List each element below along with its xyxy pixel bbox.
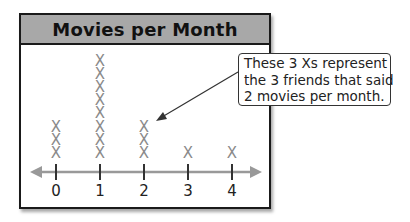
tick-label: 4 [227, 182, 237, 200]
arrow-right-icon [250, 166, 262, 178]
callout-pointer-line [162, 72, 238, 117]
x-mark: X [183, 144, 193, 162]
arrowhead-icon [156, 112, 167, 121]
x-mark: X [139, 118, 149, 136]
callout-line-3: 2 movies per month. [244, 88, 390, 105]
tick-label: 1 [95, 182, 105, 200]
x-mark: X [95, 52, 105, 70]
tick-label: 0 [51, 182, 61, 200]
x-mark: X [227, 144, 237, 162]
tick-label: 2 [139, 182, 149, 200]
line-plot: 0XXX1XXXXXXXX2XXX3X4X [0, 0, 410, 222]
annotation-callout: These 3 Xs represent the 3 friends that … [238, 53, 391, 106]
arrow-left-icon [30, 166, 42, 178]
callout-line-1: These 3 Xs represent [244, 55, 390, 72]
x-mark: X [51, 118, 61, 136]
callout-line-2: the 3 friends that said [244, 72, 390, 89]
tick-label: 3 [183, 182, 193, 200]
